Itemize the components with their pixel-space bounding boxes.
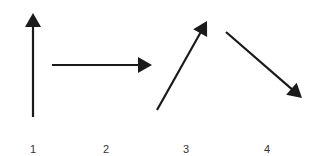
arrow-up-icon	[25, 13, 41, 117]
arrow-head	[138, 57, 152, 73]
arrow-label-2: 2	[103, 143, 109, 156]
arrow-down-right-icon	[226, 32, 302, 98]
arrow-diagram	[0, 0, 322, 156]
arrow-right-icon	[52, 57, 152, 73]
arrow-up-right-icon	[157, 21, 207, 110]
arrow-label-4: 4	[264, 143, 270, 156]
arrow-shaft	[226, 32, 293, 90]
arrow-label-3: 3	[183, 143, 189, 156]
arrows-layer	[25, 13, 302, 117]
arrow-shaft	[157, 31, 201, 110]
arrow-head	[25, 13, 41, 27]
arrow-label-1: 1	[30, 143, 36, 156]
